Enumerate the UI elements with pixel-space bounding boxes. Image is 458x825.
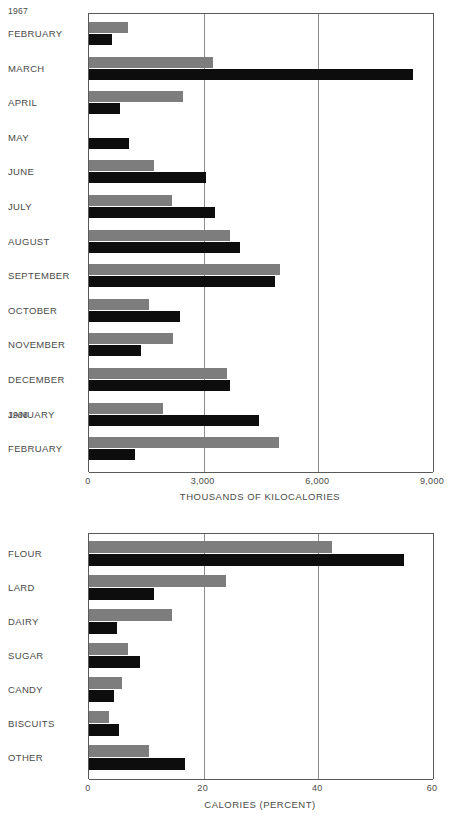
x-tick-label: 0: [85, 783, 90, 793]
category-label: DAIRY: [8, 616, 80, 627]
bar-gray: [89, 22, 128, 33]
category-label: FLOUR: [8, 548, 80, 559]
bar-black: [89, 138, 129, 149]
bar-black: [89, 207, 215, 218]
x-tick-label: 60: [427, 783, 438, 793]
bar-black: [89, 172, 206, 183]
monthly-x-axis-title: THOUSANDS OF KILOCALORIES: [88, 491, 432, 502]
x-tick-label: 40: [312, 783, 323, 793]
bar-gray: [89, 745, 149, 757]
bar-black: [89, 242, 240, 253]
category-label: MARCH: [8, 63, 80, 74]
bar-row: [89, 541, 433, 566]
bar-row: [89, 160, 433, 183]
bar-black: [89, 276, 275, 287]
bar-row: [89, 230, 433, 253]
bar-gray: [89, 403, 163, 414]
bar-gray: [89, 57, 213, 68]
bar-black: [89, 415, 259, 426]
bar-row: [89, 57, 433, 80]
bar-row: [89, 711, 433, 736]
sources-x-axis-title: CALORIES (PERCENT): [88, 799, 432, 810]
x-tick-label: 6,000: [305, 476, 329, 486]
bar-row: [89, 264, 433, 287]
bar-gray: [89, 575, 226, 587]
category-label: SEPTEMBER: [8, 270, 80, 281]
category-label: MAY: [8, 132, 80, 143]
monthly-x-axis-ticks: 03,0006,0009,000: [88, 476, 432, 490]
bar-row: [89, 22, 433, 45]
bar-gray: [89, 437, 279, 448]
bar-gray: [89, 195, 172, 206]
bar-row: [89, 609, 433, 634]
x-tick-label: 20: [197, 783, 208, 793]
bar-black: [89, 311, 180, 322]
bar-row: [89, 677, 433, 702]
category-label: JUNE: [8, 166, 80, 177]
category-label: DECEMBER: [8, 374, 80, 385]
year-group-label: 1967: [8, 6, 28, 16]
monthly-plot-area: [88, 13, 434, 472]
bar-row: [89, 745, 433, 770]
bar-row: [89, 91, 433, 114]
bar-gray: [89, 91, 183, 102]
monthly-energy-chart: FEBRUARYMARCHAPRILMAYJUNEJULYAUGUSTSEPTE…: [0, 0, 458, 510]
category-label: APRIL: [8, 97, 80, 108]
category-label: OCTOBER: [8, 305, 80, 316]
sources-category-labels: FLOURLARDDAIRYSUGARCANDYBISCUITSOTHER: [0, 515, 86, 825]
bar-gray: [89, 368, 227, 379]
bar-black: [89, 345, 141, 356]
bar-black: [89, 103, 120, 114]
category-label: NOVEMBER: [8, 339, 80, 350]
bar-gray: [89, 299, 149, 310]
category-label: AUGUST: [8, 236, 80, 247]
sources-bar-rows: [89, 534, 433, 779]
bar-black: [89, 554, 404, 566]
bar-black: [89, 34, 112, 45]
monthly-bar-rows: [89, 14, 433, 472]
monthly-category-labels: FEBRUARYMARCHAPRILMAYJUNEJULYAUGUSTSEPTE…: [0, 0, 86, 510]
category-label: LARD: [8, 582, 80, 593]
bar-row: [89, 195, 433, 218]
monthly-axis-baseline: [89, 472, 433, 473]
bar-row: [89, 299, 433, 322]
bar-gray: [89, 230, 230, 241]
bar-gray: [89, 541, 332, 553]
bar-gray: [89, 333, 173, 344]
category-label: CANDY: [8, 684, 80, 695]
bar-gray: [89, 711, 109, 723]
sources-axis-baseline: [89, 779, 433, 780]
x-tick-label: 9,000: [420, 476, 444, 486]
sources-x-axis-ticks: 0204060: [88, 783, 432, 797]
x-tick-label: 0: [85, 476, 90, 486]
bar-gray: [89, 160, 154, 171]
bar-row: [89, 126, 433, 149]
bar-gray: [89, 643, 128, 655]
category-label: FEBRUARY: [8, 443, 80, 454]
category-label: JULY: [8, 201, 80, 212]
calorie-sources-chart: FLOURLARDDAIRYSUGARCANDYBISCUITSOTHER 02…: [0, 515, 458, 825]
bar-black: [89, 690, 114, 702]
category-label: SUGAR: [8, 650, 80, 661]
bar-row: [89, 437, 433, 460]
bar-black: [89, 758, 185, 770]
year-group-label: 1968: [8, 410, 28, 420]
x-tick-label: 3,000: [191, 476, 215, 486]
bar-row: [89, 403, 433, 426]
bar-black: [89, 724, 119, 736]
sources-plot-area: [88, 533, 434, 779]
bar-row: [89, 575, 433, 600]
bar-row: [89, 368, 433, 391]
bar-black: [89, 588, 154, 600]
bar-row: [89, 643, 433, 668]
bar-black: [89, 449, 135, 460]
category-label: FEBRUARY: [8, 28, 80, 39]
bar-gray: [89, 264, 280, 275]
bar-black: [89, 656, 140, 668]
bar-row: [89, 333, 433, 356]
bar-black: [89, 380, 230, 391]
bar-black: [89, 69, 413, 80]
category-label: OTHER: [8, 752, 80, 763]
bar-gray: [89, 677, 122, 689]
category-label: BISCUITS: [8, 718, 80, 729]
